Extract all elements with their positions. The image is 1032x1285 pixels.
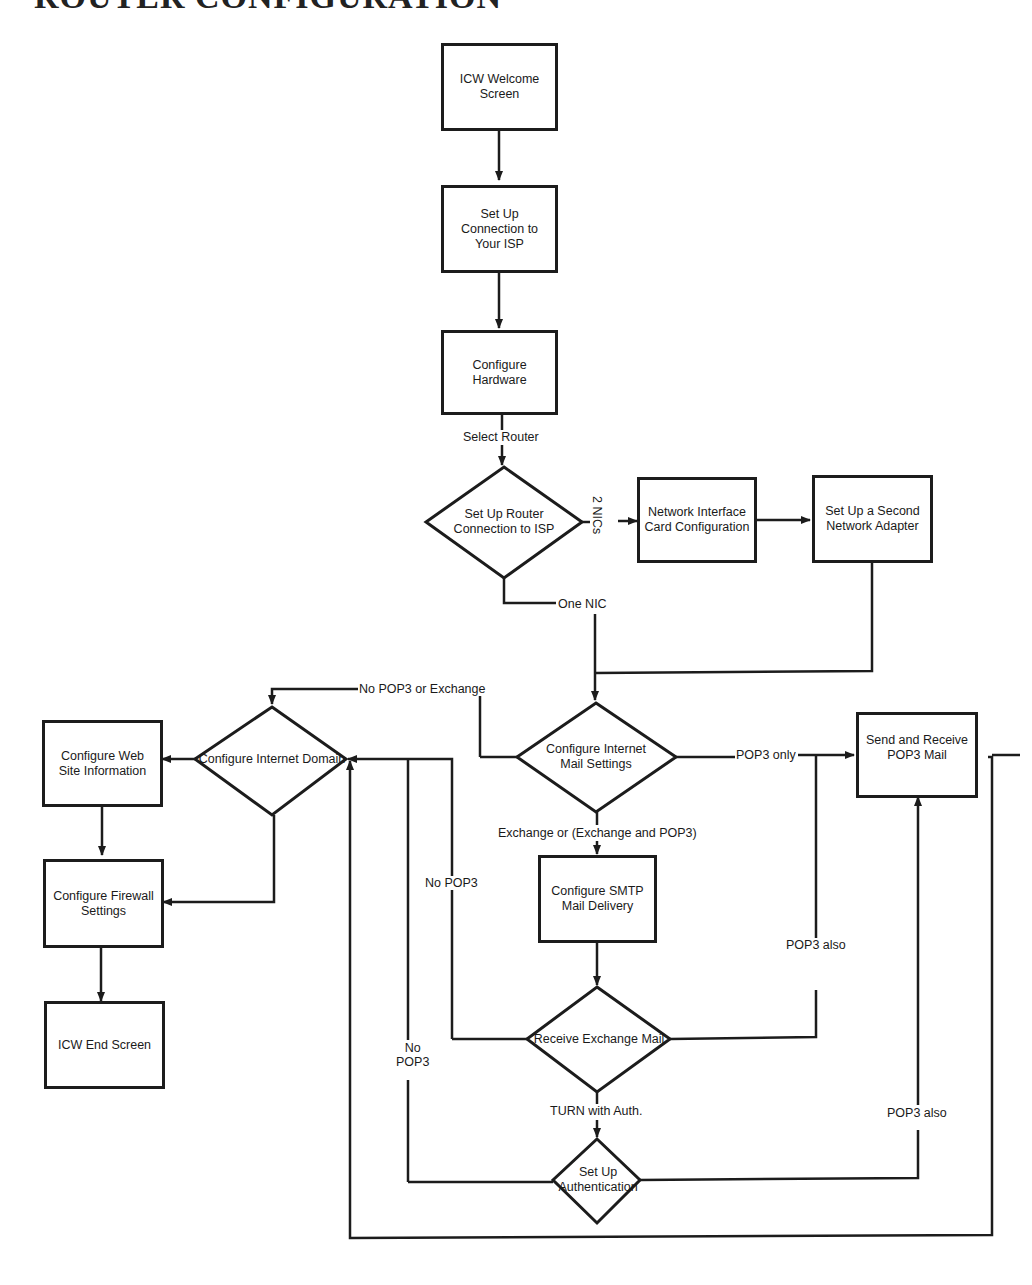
node-second-adapter: Set Up a Second Network Adapter xyxy=(812,475,933,563)
node-smtp: Configure SMTP Mail Delivery xyxy=(538,855,657,943)
label-exchange-or: Exchange or (Exchange and POP3) xyxy=(497,826,698,840)
node-firewall: Configure Firewall Settings xyxy=(43,859,164,948)
node-pop3-mail: Send and Receive POP3 Mail xyxy=(856,712,978,798)
label-pop3-also-a: POP3 also xyxy=(785,938,847,952)
label-no-pop3-b: No POP3 xyxy=(395,1041,430,1069)
label-no-pop3-or-exchange: No POP3 or Exchange xyxy=(358,682,486,696)
node-welcome: ICW Welcome Screen xyxy=(441,43,558,131)
label-one-nic: One NIC xyxy=(557,597,608,611)
node-end-screen: ICW End Screen xyxy=(44,1001,165,1089)
node-internet-domain: Configure Internet Domain xyxy=(192,750,352,768)
label-no-pop3-a: No POP3 xyxy=(424,876,479,890)
label-pop3: POP3 xyxy=(396,1055,429,1069)
node-web-site: Configure Web Site Information xyxy=(42,720,163,807)
node-mail-settings: Configure Internet Mail Settings xyxy=(535,735,657,779)
node-isp-connection: Set Up Connection to Your ISP xyxy=(441,185,558,273)
label-turn-with-auth: TURN with Auth. xyxy=(549,1104,643,1118)
label-pop3-only: POP3 only xyxy=(735,748,797,762)
label-two-nics: 2 NICs xyxy=(590,496,604,534)
node-receive-exchange: Receive Exchange Mail xyxy=(526,1030,672,1048)
node-router-connection: Set Up Router Connection to ISP xyxy=(440,500,568,544)
label-select-router: Select Router xyxy=(462,430,540,444)
node-authentication: Set Up Authentication xyxy=(555,1162,641,1198)
node-nic-config: Network Interface Card Configuration xyxy=(637,477,757,563)
label-pop3-also-b: POP3 also xyxy=(886,1106,948,1120)
node-hardware: Configure Hardware xyxy=(441,330,558,415)
label-no: No xyxy=(396,1041,429,1055)
